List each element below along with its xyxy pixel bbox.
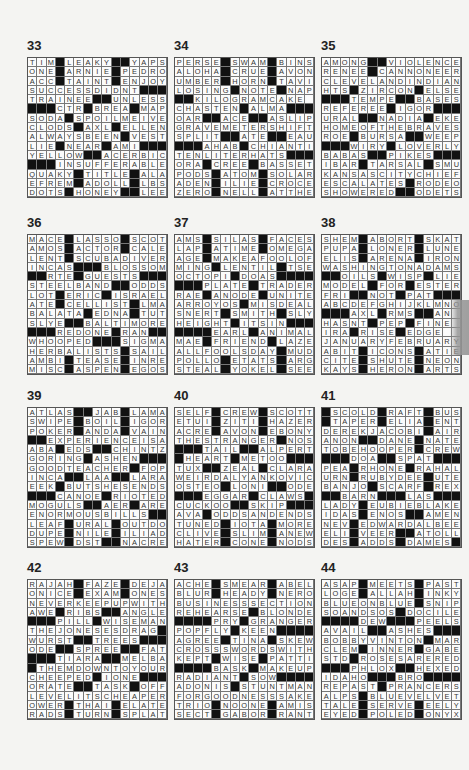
letter-cell: T [231, 281, 240, 290]
black-square [359, 356, 368, 365]
letter-cell: L [112, 179, 121, 188]
letter-cell: N [443, 417, 452, 426]
letter-cell: F [378, 281, 387, 290]
letter-cell: E [359, 417, 368, 426]
letter-cell: B [368, 692, 377, 701]
black-square [112, 281, 121, 290]
letter-cell: U [194, 417, 203, 426]
letter-cell: E [424, 617, 433, 626]
letter-cell: C [47, 86, 56, 95]
solution-grid: AMONGVIOLENCERENEECANNONEERCLEVELANDINDI… [321, 57, 462, 198]
letter-cell: R [56, 328, 65, 337]
letter-cell: T [221, 454, 230, 463]
letter-cell: D [396, 473, 405, 482]
letter-cell: T [331, 86, 340, 95]
letter-cell: H [331, 235, 340, 244]
letter-cell: I [378, 636, 387, 645]
letter-cell: A [424, 347, 433, 356]
letter-cell: H [184, 104, 193, 113]
letter-cell: E [65, 328, 74, 337]
letter-cell: L [443, 701, 452, 710]
letter-cell: E [203, 580, 212, 589]
black-square [112, 473, 121, 482]
letter-cell: R [37, 95, 46, 104]
black-square [74, 272, 83, 281]
letter-cell: E [149, 492, 158, 501]
letter-cell: L [359, 281, 368, 290]
letter-cell: G [203, 319, 212, 328]
black-square [259, 408, 268, 417]
letter-cell: U [452, 160, 461, 169]
letter-cell: I [130, 254, 139, 263]
letter-cell: L [149, 244, 158, 253]
letter-cell: R [387, 529, 396, 538]
black-square [424, 160, 433, 169]
letter-cell: U [305, 132, 314, 141]
letter-cell: T [37, 408, 46, 417]
black-square [443, 626, 452, 635]
letter-cell: O [212, 501, 221, 510]
letter-cell: S [268, 692, 277, 701]
letter-cell: A [331, 365, 340, 374]
letter-cell: O [350, 408, 359, 417]
letter-cell: E [158, 701, 167, 710]
black-square [203, 510, 212, 519]
letter-cell: I [65, 654, 74, 663]
letter-cell: A [249, 356, 258, 365]
black-square [28, 654, 37, 663]
letter-cell: Y [452, 142, 461, 151]
letter-cell: M [231, 580, 240, 589]
black-square [415, 254, 424, 263]
letter-cell: R [121, 464, 130, 473]
letter-cell: E [350, 445, 359, 454]
letter-cell: S [322, 235, 331, 244]
black-square [47, 328, 56, 337]
letter-cell: O [378, 464, 387, 473]
letter-cell: E [406, 436, 415, 445]
letter-cell: F [415, 319, 424, 328]
letter-cell: Y [331, 710, 340, 719]
black-square [175, 281, 184, 290]
letter-cell: E [249, 454, 258, 463]
letter-cell: E [424, 142, 433, 151]
letter-cell: A [396, 589, 405, 598]
letter-cell: I [368, 645, 377, 654]
letter-cell: O [84, 664, 93, 673]
letter-cell: S [112, 300, 121, 309]
letter-cell: C [194, 501, 203, 510]
letter-cell: C [28, 673, 37, 682]
letter-cell: T [277, 682, 286, 691]
letter-cell: C [84, 244, 93, 253]
letter-cell: A [277, 281, 286, 290]
letter-cell: O [175, 114, 184, 123]
letter-cell: K [56, 170, 65, 179]
letter-cell: N [396, 67, 405, 76]
letter-cell: Y [305, 427, 314, 436]
letter-cell: O [387, 281, 396, 290]
letter-cell: O [249, 86, 258, 95]
letter-cell: T [240, 123, 249, 132]
letter-cell: E [37, 520, 46, 529]
black-square [28, 492, 37, 501]
black-square [287, 272, 296, 281]
letter-cell: S [231, 664, 240, 673]
letter-cell: A [259, 272, 268, 281]
letter-cell: M [259, 58, 268, 67]
letter-cell: O [121, 263, 130, 272]
letter-cell: U [149, 309, 158, 318]
letter-cell: E [93, 132, 102, 141]
letter-cell: D [331, 510, 340, 519]
letter-cell: R [350, 160, 359, 169]
letter-cell: B [341, 492, 350, 501]
letter-cell: E [231, 356, 240, 365]
black-square [221, 58, 230, 67]
letter-cell: I [56, 95, 65, 104]
letter-cell: J [47, 580, 56, 589]
letter-cell: L [240, 188, 249, 197]
black-square [287, 454, 296, 463]
letter-cell: R [406, 673, 415, 682]
letter-cell: R [221, 337, 230, 346]
letter-cell: S [194, 599, 203, 608]
letter-cell: L [434, 272, 443, 281]
black-square [74, 589, 83, 598]
